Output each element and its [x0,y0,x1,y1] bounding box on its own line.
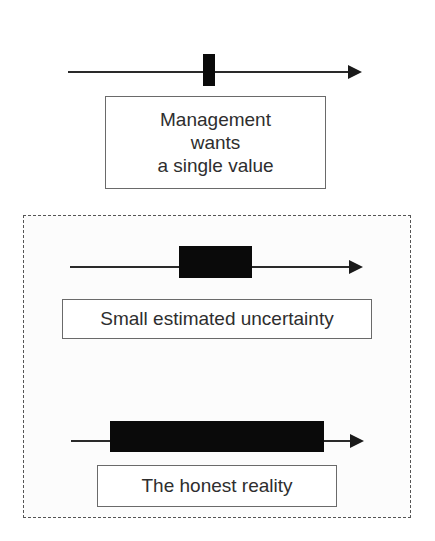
label-management-wants-single-value: Management wants a single value [105,96,326,189]
label-line: wants [191,131,241,154]
label-line: Management [160,108,271,131]
arrow-right-icon [348,65,362,79]
arrow-right-icon [349,260,363,274]
label-small-estimated-uncertainty: Small estimated uncertainty [62,299,372,339]
label-honest-reality: The honest reality [97,465,337,507]
arrow-right-icon [350,434,364,448]
single-value-marker [203,54,215,86]
label-line: a single value [157,154,273,177]
wide-uncertainty-range [110,421,324,452]
small-uncertainty-range [179,246,252,278]
